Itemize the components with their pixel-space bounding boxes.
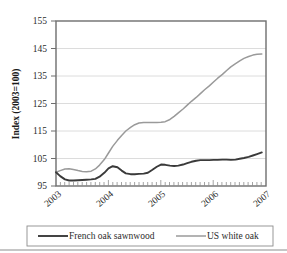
chart-svg: 155 145 135 125 115 105 95 Index (2003=1…	[0, 0, 287, 253]
x-tick-label-2006: 2006	[199, 189, 220, 209]
y-tick-label-145: 145	[33, 44, 48, 54]
x-tick-label-2003: 2003	[42, 189, 63, 209]
x-tick-label-2007: 2007	[251, 189, 272, 209]
legend-label-us-white-oak: US white oak	[207, 231, 259, 241]
y-tick-label-95: 95	[38, 181, 48, 191]
y-axis-ticks	[51, 21, 56, 186]
y-tick-label-105: 105	[33, 154, 48, 164]
x-tick-label-2005: 2005	[146, 189, 167, 209]
chart-figure: 155 145 135 125 115 105 95 Index (2003=1…	[0, 0, 287, 253]
y-tick-label-155: 155	[33, 16, 48, 26]
x-tick-label-2004: 2004	[94, 189, 115, 209]
legend-label-french-oak-sawnwood: French oak sawnwood	[69, 231, 155, 241]
y-tick-label-135: 135	[33, 71, 48, 81]
y-axis-title: Index (2003=100)	[11, 69, 22, 140]
y-tick-label-115: 115	[33, 126, 47, 136]
legend: French oak sawnwood US white oak	[27, 226, 273, 246]
y-tick-label-125: 125	[33, 99, 48, 109]
